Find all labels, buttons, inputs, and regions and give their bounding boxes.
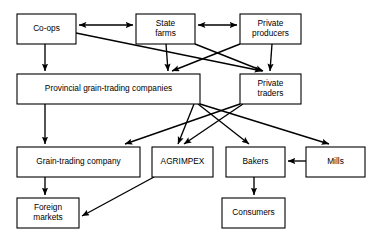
flow-diagram-svg: Co-opsStatefarmsPrivateproducersProvinci… <box>0 0 383 239</box>
node-mills[interactable]: Mills <box>306 147 365 177</box>
node-label-foreign-markets: Foreign <box>34 202 63 212</box>
node-agrimpex[interactable]: AGRIMPEX <box>152 147 213 177</box>
node-co-ops[interactable]: Co-ops <box>17 14 76 44</box>
edge-provincial-grain-trading-companies-to-mills <box>200 104 329 144</box>
node-label-co-ops: Co-ops <box>33 23 60 33</box>
node-label-agrimpex: AGRIMPEX <box>161 156 205 166</box>
node-label-consumers: Consumers <box>232 207 274 217</box>
edge-private-producers-to-private-traders <box>270 44 272 71</box>
edge-state-farms-to-provincial-grain-trading-companies <box>166 44 168 71</box>
node-label-private-traders: Private <box>258 78 284 88</box>
node-label-foreign-markets: markets <box>33 212 63 222</box>
node-label-provincial-grain-trading-companies: Provincial grain-trading companies <box>45 83 172 93</box>
edges-layer <box>45 25 329 216</box>
node-label-private-traders: traders <box>258 88 284 98</box>
edge-private-traders-to-agrimpex <box>184 104 243 144</box>
node-state-farms[interactable]: Statefarms <box>136 14 195 44</box>
node-label-bakers: Bakers <box>243 156 269 166</box>
node-consumers[interactable]: Consumers <box>222 198 285 228</box>
node-label-mills: Mills <box>327 156 344 166</box>
node-provincial-grain-trading-companies[interactable]: Provincial grain-trading companies <box>17 74 200 104</box>
edge-provincial-grain-trading-companies-to-agrimpex <box>178 104 194 144</box>
node-label-state-farms: farms <box>155 28 176 38</box>
node-private-traders[interactable]: Privatetraders <box>240 74 301 104</box>
edge-agrimpex-to-foreign-markets <box>82 177 154 216</box>
node-bakers[interactable]: Bakers <box>226 147 285 177</box>
flow-diagram-canvas: Co-opsStatefarmsPrivateproducersProvinci… <box>0 0 383 239</box>
node-foreign-markets[interactable]: Foreignmarkets <box>17 198 79 228</box>
node-label-state-farms: State <box>156 18 176 28</box>
node-grain-trading-company[interactable]: Grain-trading company <box>17 147 140 177</box>
node-label-private-producers: producers <box>252 28 289 38</box>
node-private-producers[interactable]: Privateproducers <box>240 14 301 44</box>
node-label-grain-trading-company: Grain-trading company <box>36 156 121 166</box>
node-label-private-producers: Private <box>258 18 284 28</box>
